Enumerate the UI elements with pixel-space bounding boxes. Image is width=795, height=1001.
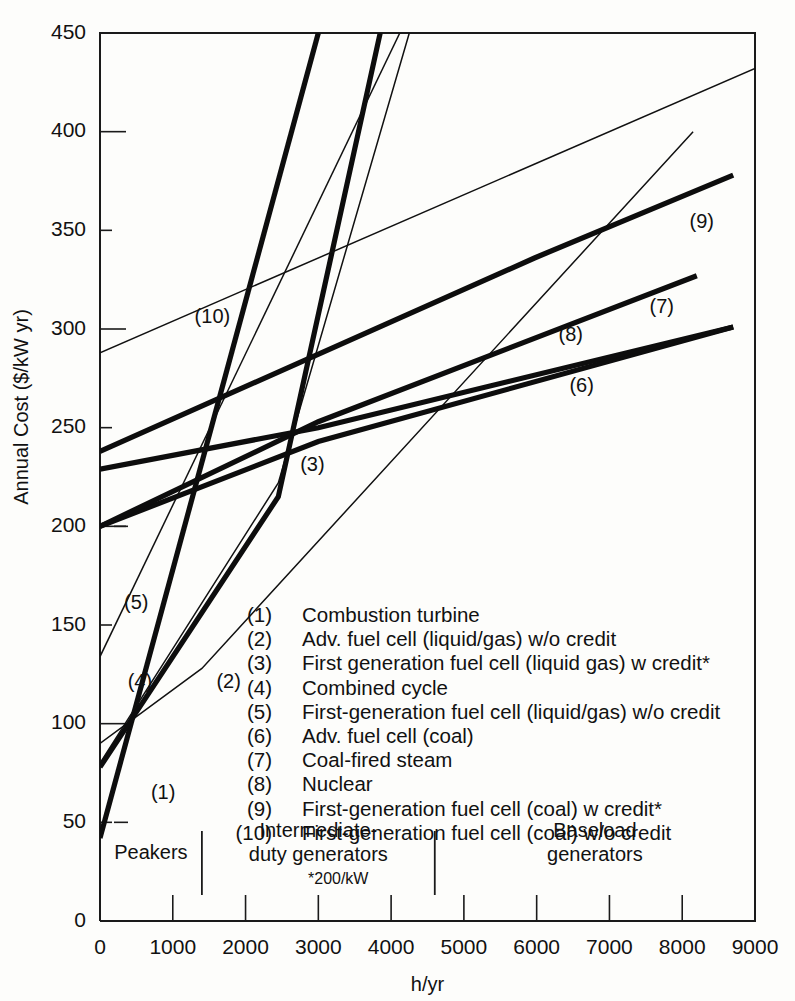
legend-number-1: (1) [247, 603, 272, 626]
legend-number-10: (10) [236, 821, 272, 844]
x-tick-label: 3000 [295, 935, 342, 958]
series-tag-6: (6) [569, 374, 593, 396]
y-tick-label: 300 [51, 316, 86, 339]
y-tick-label: 350 [51, 217, 86, 240]
chart-canvas: 050100150200250300350400450 010002000300… [0, 0, 795, 1001]
x-tick-label: 9000 [732, 935, 779, 958]
x-tick-label: 7000 [586, 935, 633, 958]
series-tag-1: (1) [151, 781, 175, 803]
x-tick-label: 8000 [659, 935, 706, 958]
legend-label-10: First-generation fuel cell (coal) w/o cr… [302, 821, 671, 844]
x-tick-label: 2000 [222, 935, 269, 958]
y-tick-label: 150 [51, 612, 86, 635]
series-tag-8: (8) [559, 323, 583, 345]
y-tick-label: 250 [51, 414, 86, 437]
y-tick-label: 100 [51, 710, 86, 733]
band-label-peakers: Peakers [114, 841, 187, 863]
legend-number-3: (3) [247, 651, 272, 674]
x-tick-label: 6000 [513, 935, 560, 958]
legend-label-9: First-generation fuel cell (coal) w cred… [302, 797, 662, 820]
legend-label-3: First generation fuel cell (liquid gas) … [302, 651, 710, 674]
legend-number-2: (2) [247, 627, 272, 650]
x-tick-label: 0 [94, 935, 106, 958]
y-tick-label: 400 [51, 118, 86, 141]
y-axis-title: Annual Cost ($/kW yr) [10, 309, 32, 505]
series-tag-7: (7) [649, 295, 673, 317]
legend-label-6: Adv. fuel cell (coal) [302, 724, 474, 747]
y-tick-label: 200 [51, 513, 86, 536]
legend-number-9: (9) [247, 797, 272, 820]
legend-number-7: (7) [247, 748, 272, 771]
series-tag-9: (9) [690, 210, 714, 232]
legend-label-1: Combustion turbine [302, 603, 480, 626]
legend-label-2: Adv. fuel cell (liquid/gas) w/o credit [302, 627, 616, 650]
series-tag-2: (2) [216, 670, 240, 692]
series-tag-10: (10) [195, 305, 231, 327]
series-tag-4: (4) [128, 670, 152, 692]
legend-number-4: (4) [247, 676, 272, 699]
legend-number-6: (6) [247, 724, 272, 747]
y-tick-label: 0 [74, 908, 86, 931]
legend-number-8: (8) [247, 772, 272, 795]
series-tag-5: (5) [124, 591, 148, 613]
legend-number-5: (5) [247, 700, 272, 723]
series-line-8 [100, 327, 733, 469]
y-tick-label: 450 [51, 20, 86, 43]
x-axis-ticks: 0100020003000400050006000700080009000 [94, 895, 778, 958]
legend-label-5: First-generation fuel cell (liquid/gas) … [302, 700, 720, 723]
chart-figure: 050100150200250300350400450 010002000300… [0, 0, 795, 1001]
legend-label-8: Nuclear [302, 772, 373, 795]
legend-footnote: *200/kW [308, 870, 369, 887]
x-tick-label: 4000 [368, 935, 415, 958]
series-line-5 [100, 33, 400, 657]
legend-label-4: Combined cycle [302, 676, 448, 699]
x-axis-title: h/yr [411, 973, 445, 995]
y-axis-ticks: 050100150200250300350400450 [51, 20, 126, 931]
band-label-baseload-2: generators [547, 843, 643, 865]
band-label-intermediate-2: duty generators [249, 843, 388, 865]
x-tick-label: 1000 [149, 935, 196, 958]
x-tick-label: 5000 [441, 935, 488, 958]
series-tag-3: (3) [300, 453, 324, 475]
legend-label-7: Coal-fired steam [302, 748, 452, 771]
y-tick-label: 50 [63, 809, 86, 832]
